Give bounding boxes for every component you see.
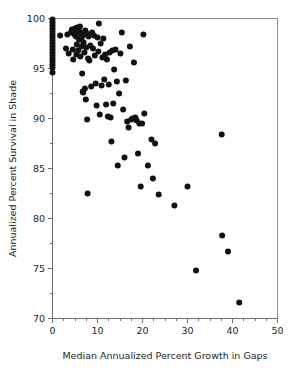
data-point	[110, 101, 116, 107]
data-point	[138, 184, 144, 190]
data-point	[97, 112, 103, 118]
x-tick-labels: 01020304050	[49, 325, 283, 336]
data-point	[127, 44, 133, 50]
y-tick-label: 75	[33, 263, 45, 274]
data-point	[79, 71, 85, 77]
data-point	[99, 83, 105, 89]
data-point	[90, 46, 96, 52]
data-point	[111, 67, 117, 73]
data-point	[123, 78, 129, 84]
figure-container: 01020304050 707580859095100 Median Annua…	[0, 0, 295, 379]
data-point	[106, 82, 112, 88]
plot-frame	[53, 19, 278, 319]
y-tick-label: 80	[33, 213, 45, 224]
data-point	[185, 184, 191, 190]
data-point	[225, 249, 231, 255]
data-point	[101, 77, 107, 83]
data-point	[95, 49, 101, 55]
y-tick-labels: 707580859095100	[27, 13, 45, 324]
data-point	[219, 132, 225, 138]
data-point	[70, 57, 76, 63]
data-point	[193, 268, 199, 274]
data-point	[108, 139, 114, 145]
figure-caption	[0, 371, 295, 379]
data-point	[139, 121, 145, 127]
data-point	[135, 151, 141, 157]
x-tick-label: 40	[226, 325, 238, 336]
data-point	[117, 51, 123, 57]
y-tick-label: 85	[33, 163, 45, 174]
data-point	[57, 33, 63, 39]
x-tick-label: 30	[181, 325, 193, 336]
data-point	[86, 58, 92, 64]
y-axis-title: Annualized Percent Survival in Shade	[7, 80, 18, 257]
scatter-plot: 01020304050 707580859095100 Median Annua…	[0, 0, 295, 379]
axis-ticks	[48, 19, 278, 324]
x-tick-label: 0	[49, 325, 55, 336]
data-point	[219, 233, 225, 239]
data-point	[115, 163, 121, 169]
data-point	[141, 111, 147, 117]
data-point	[131, 60, 137, 66]
data-points	[50, 17, 243, 306]
data-point	[85, 191, 91, 197]
data-point	[116, 91, 122, 97]
y-tick-label: 70	[33, 313, 45, 324]
data-point	[95, 35, 101, 41]
data-point	[152, 141, 158, 147]
data-point	[150, 176, 156, 182]
y-tick-label: 95	[33, 63, 45, 74]
data-point	[126, 125, 132, 131]
data-point	[77, 24, 83, 30]
data-point	[114, 79, 120, 85]
data-point	[122, 155, 128, 161]
x-tick-label: 10	[91, 325, 103, 336]
data-point	[108, 115, 114, 121]
x-tick-label: 20	[136, 325, 148, 336]
data-point	[100, 36, 106, 42]
data-point	[70, 47, 76, 53]
data-point	[83, 97, 89, 103]
data-point	[119, 30, 125, 36]
data-point	[96, 21, 102, 27]
data-point	[50, 70, 56, 76]
data-point	[104, 57, 110, 63]
data-point	[171, 203, 177, 209]
data-point	[84, 117, 90, 123]
data-point	[93, 81, 99, 87]
data-point	[103, 102, 109, 108]
data-point	[140, 32, 146, 38]
x-axis-title: Median Annualized Percent Growth in Gaps	[62, 350, 267, 361]
x-tick-label: 50	[271, 325, 283, 336]
data-point	[82, 86, 88, 92]
y-tick-label: 100	[27, 13, 45, 24]
data-point	[94, 103, 100, 109]
data-point	[145, 163, 151, 169]
y-tick-label: 90	[33, 113, 45, 124]
data-point	[236, 300, 242, 306]
data-point	[113, 47, 119, 53]
data-point	[120, 107, 126, 113]
data-point	[156, 192, 162, 198]
